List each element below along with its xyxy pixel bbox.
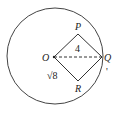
label-r: R bbox=[74, 83, 81, 94]
center-point-o bbox=[53, 56, 55, 58]
label-q: Q bbox=[104, 52, 112, 63]
diagram-canvas: P O Q R 4 √8 ' bbox=[0, 0, 125, 116]
label-p: P bbox=[74, 21, 81, 32]
segment-pq bbox=[78, 34, 102, 57]
label-o: O bbox=[42, 52, 49, 63]
segment-ro bbox=[54, 57, 78, 81]
label-or-length: √8 bbox=[47, 70, 58, 81]
label-oq-length: 4 bbox=[75, 43, 80, 54]
stray-mark: ' bbox=[106, 66, 108, 77]
